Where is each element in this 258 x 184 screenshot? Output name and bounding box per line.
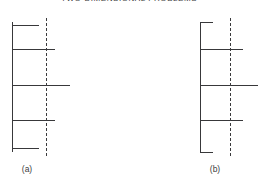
bar-b-2 <box>200 49 243 50</box>
bar-b-4 <box>200 120 243 121</box>
panel-label-b: (b) <box>203 164 227 174</box>
figure-title: TWO-DIMENSIONAL PROBLEMS <box>0 0 258 3</box>
bar-a-2 <box>12 49 55 50</box>
figure-canvas: TWO-DIMENSIONAL PROBLEMS (a) (b) <box>0 0 258 184</box>
bar-b-5 <box>200 152 213 153</box>
panel-label-a: (a) <box>15 164 39 174</box>
bar-a-5 <box>12 148 39 149</box>
bar-a-4 <box>12 120 55 121</box>
bar-a-1 <box>12 25 39 26</box>
solid-vertical-axis-a <box>12 22 13 152</box>
dashed-centerline-b <box>230 18 231 156</box>
bar-b-3 <box>200 85 258 86</box>
solid-vertical-axis-b <box>200 22 201 152</box>
bar-a-3 <box>12 85 70 86</box>
bar-b-1 <box>200 22 213 23</box>
dashed-centerline-a <box>46 18 47 156</box>
